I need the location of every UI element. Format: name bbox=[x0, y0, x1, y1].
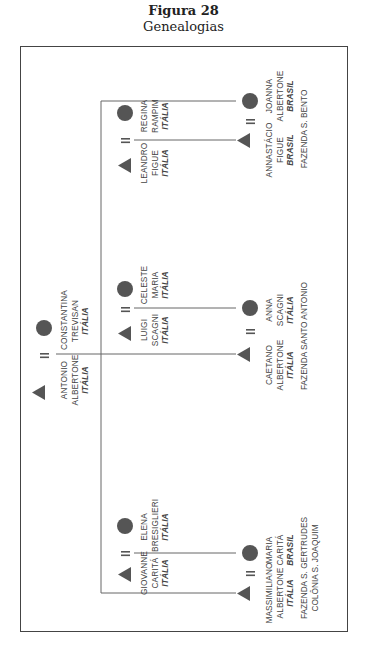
female-circle-icon bbox=[242, 93, 258, 109]
female-circle-icon bbox=[36, 320, 52, 336]
person-label-celeste: CELESTE MARIA ITÁLIA bbox=[139, 264, 171, 306]
male-triangle-icon bbox=[32, 385, 45, 400]
marriage-equals-icon bbox=[246, 571, 255, 573]
female-circle-icon bbox=[117, 518, 133, 534]
marriage-equals-icon bbox=[40, 353, 49, 355]
person-label-anna: ANNA SCAGNI ITÁLIA bbox=[264, 288, 296, 332]
person-label-annastacio: ANNASTÁCIO FIGUE BRASIL bbox=[264, 122, 296, 178]
person-label-joanna: JOANNA ALBERTONE BRASIL bbox=[264, 69, 296, 123]
person-label-luigi: LUIGI SCAGNI ITÁLIA bbox=[139, 310, 171, 350]
place-label-colonia-s-joaquim: COLÔNIA S. JOAQUIM bbox=[310, 514, 321, 622]
male-triangle-icon bbox=[118, 567, 131, 582]
person-label-maria: MARIA CARITÁ BRASIL bbox=[264, 530, 296, 570]
female-circle-icon bbox=[117, 105, 133, 121]
person-label-antonio: ANTONIO ALBERTONE ITÁLIA bbox=[59, 352, 91, 408]
person-label-regina: REGINA RAMPIM ITÁLIA bbox=[139, 94, 171, 138]
female-circle-icon bbox=[242, 545, 258, 561]
male-triangle-icon bbox=[237, 586, 250, 601]
person-label-giovanne: GIOVANNE CARITÁ ITÁLIA bbox=[139, 551, 171, 595]
male-triangle-icon bbox=[118, 158, 131, 173]
male-triangle-icon bbox=[118, 326, 131, 341]
male-triangle-icon bbox=[237, 133, 250, 148]
person-label-massimiliano: MASSIMILIANO ALBERTONE ITÁLIA bbox=[264, 562, 296, 624]
place-label-fazenda-santo-antonio: FAZENDA SANTO ANTONIO bbox=[299, 274, 310, 398]
person-label-elena: ELENA BRESIGLIERI ITÁLIA bbox=[139, 502, 171, 552]
marriage-equals-icon bbox=[246, 119, 255, 121]
person-label-caetano: CAETANO ALBERTONE ITÁLIA bbox=[264, 338, 296, 392]
place-label-fazenda-s-bento: FAZENDA S. BENTO bbox=[299, 88, 310, 170]
person-label-constantina: CONSTANTINA TREVISAN ITÁLIA bbox=[59, 292, 91, 350]
marriage-equals-icon bbox=[121, 551, 130, 553]
marriage-equals-icon bbox=[121, 138, 130, 140]
place-label-fazenda-s-gertrudes: FAZENDA S. GERTRUDES bbox=[299, 514, 310, 622]
male-triangle-icon bbox=[237, 347, 250, 362]
marriage-equals-icon bbox=[121, 307, 130, 309]
female-circle-icon bbox=[242, 300, 258, 316]
marriage-equals-icon bbox=[246, 329, 255, 331]
person-label-leandro: LEANDRO FIGUE ITÁLIA bbox=[139, 140, 171, 186]
female-circle-icon bbox=[117, 281, 133, 297]
